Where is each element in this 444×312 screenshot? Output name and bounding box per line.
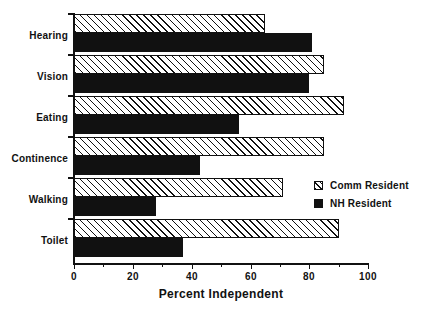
- bar-group-vision: [74, 55, 368, 95]
- x-axis-title: Percent Independent: [74, 287, 368, 301]
- bar-walking-comm-resident: [74, 178, 283, 197]
- x-tick-label-60: 60: [245, 271, 257, 282]
- y-axis-label-walking: Walking: [4, 194, 68, 205]
- x-tick-50: [221, 264, 222, 267]
- bar-hearing-comm-resident: [74, 14, 265, 33]
- y-axis-label-vision: Vision: [4, 71, 68, 82]
- x-tick-30: [162, 264, 163, 267]
- bar-eating-nh-resident: [74, 115, 239, 134]
- x-tick-70: [280, 264, 281, 267]
- legend-label-comm-resident: Comm Resident: [330, 180, 409, 191]
- x-tick-40: [192, 264, 193, 269]
- filled-square-icon: [314, 199, 323, 208]
- x-tick-20: [133, 264, 134, 269]
- hatched-square-icon: [314, 181, 323, 190]
- x-tick-label-40: 40: [186, 271, 198, 282]
- bar-group-toilet: [74, 219, 368, 259]
- y-axis-label-continence: Continence: [4, 153, 68, 164]
- bar-vision-nh-resident: [74, 74, 309, 93]
- y-axis-label-toilet: Toilet: [4, 235, 68, 246]
- bar-toilet-comm-resident: [74, 219, 339, 238]
- x-tick-label-80: 80: [303, 271, 315, 282]
- bar-group-hearing: [74, 14, 368, 54]
- x-tick-100: [368, 264, 369, 269]
- bar-hearing-nh-resident: [74, 33, 312, 52]
- x-tick-80: [309, 264, 310, 269]
- bar-walking-nh-resident: [74, 197, 156, 216]
- x-tick-90: [339, 264, 340, 267]
- bar-vision-comm-resident: [74, 55, 324, 74]
- x-tick-label-0: 0: [71, 271, 77, 282]
- x-tick-60: [251, 264, 252, 269]
- x-tick-10: [103, 264, 104, 267]
- bar-chart: Hearing Vision Eating Continence Walking…: [0, 0, 444, 312]
- x-tick-label-20: 20: [127, 271, 139, 282]
- x-tick-0: [74, 264, 75, 269]
- plot-area: [74, 14, 368, 264]
- legend-label-nh-resident: NH Resident: [330, 198, 392, 209]
- y-axis-labels: Hearing Vision Eating Continence Walking…: [0, 14, 68, 264]
- y-axis-label-hearing: Hearing: [4, 30, 68, 41]
- x-tick-label-100: 100: [359, 271, 377, 282]
- bar-group-continence: [74, 137, 368, 177]
- legend: Comm Resident NH Resident: [314, 178, 409, 214]
- bar-eating-comm-resident: [74, 96, 344, 115]
- legend-item-comm-resident: Comm Resident: [314, 178, 409, 192]
- bar-continence-nh-resident: [74, 156, 200, 175]
- bar-toilet-nh-resident: [74, 238, 183, 257]
- bar-group-eating: [74, 96, 368, 136]
- y-axis-label-eating: Eating: [4, 112, 68, 123]
- legend-item-nh-resident: NH Resident: [314, 196, 409, 210]
- bar-continence-comm-resident: [74, 137, 324, 156]
